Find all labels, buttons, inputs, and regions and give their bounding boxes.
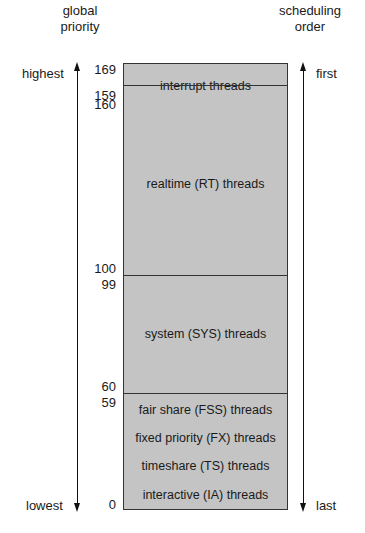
- divider-160: [124, 85, 287, 86]
- fss-threads-label: fair share (FSS) threads: [124, 402, 287, 418]
- tick-169: 169: [86, 63, 116, 77]
- tick-159: 159: [86, 89, 116, 103]
- ts-threads-label: timeshare (TS) threads: [124, 458, 287, 474]
- header-line: order: [260, 19, 360, 35]
- highest-label: highest: [22, 66, 64, 82]
- header-line: priority: [40, 19, 120, 35]
- scheduling-order-header: scheduling order: [260, 3, 360, 35]
- tick-100: 100: [86, 262, 116, 276]
- ia-threads-label: interactive (IA) threads: [124, 487, 287, 503]
- header-line: scheduling: [260, 3, 360, 19]
- rt-threads-label: realtime (RT) threads: [124, 176, 287, 192]
- lowest-label: lowest: [26, 498, 63, 514]
- divider-100: [124, 275, 287, 276]
- global-priority-header: global priority: [40, 3, 120, 35]
- fx-threads-label: fixed priority (FX) threads: [124, 430, 287, 446]
- priority-classes-block: interrupt threads realtime (RT) threads …: [123, 63, 288, 510]
- tick-59: 59: [86, 396, 116, 410]
- tick-0: 0: [86, 498, 116, 512]
- sys-threads-label: system (SYS) threads: [124, 326, 287, 342]
- tick-60: 60: [86, 380, 116, 394]
- last-label: last: [316, 498, 336, 514]
- tick-99: 99: [86, 278, 116, 292]
- divider-60: [124, 393, 287, 394]
- interrupt-threads-label: interrupt threads: [124, 78, 287, 94]
- first-label: first: [316, 66, 337, 82]
- header-line: global: [40, 3, 120, 19]
